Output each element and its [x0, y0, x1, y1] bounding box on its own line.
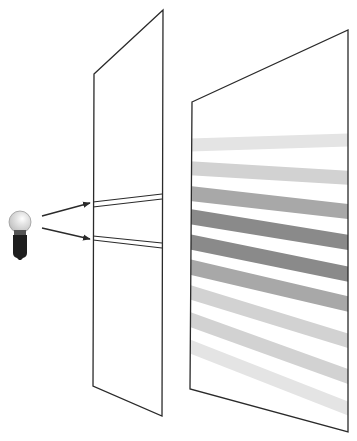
light-rays: [42, 203, 90, 239]
light-bulb-icon: [9, 211, 31, 260]
double-slit-diagram: Double-slit diffraction: [0, 0, 357, 441]
fringe-band: [186, 140, 352, 145]
fringe-band: [186, 168, 352, 178]
diagram-canvas: [0, 0, 357, 441]
bulb-neck: [14, 230, 26, 235]
ray-arrow: [42, 203, 90, 216]
slit-panel: [93, 10, 163, 416]
bulb-glass: [9, 211, 31, 233]
screen-panel: [186, 30, 352, 432]
fringe-band: [186, 193, 352, 212]
bulb-base: [13, 235, 27, 260]
slit-panel-outline: [93, 10, 163, 416]
interference-fringes: [186, 140, 352, 410]
ray-arrow: [42, 228, 90, 239]
